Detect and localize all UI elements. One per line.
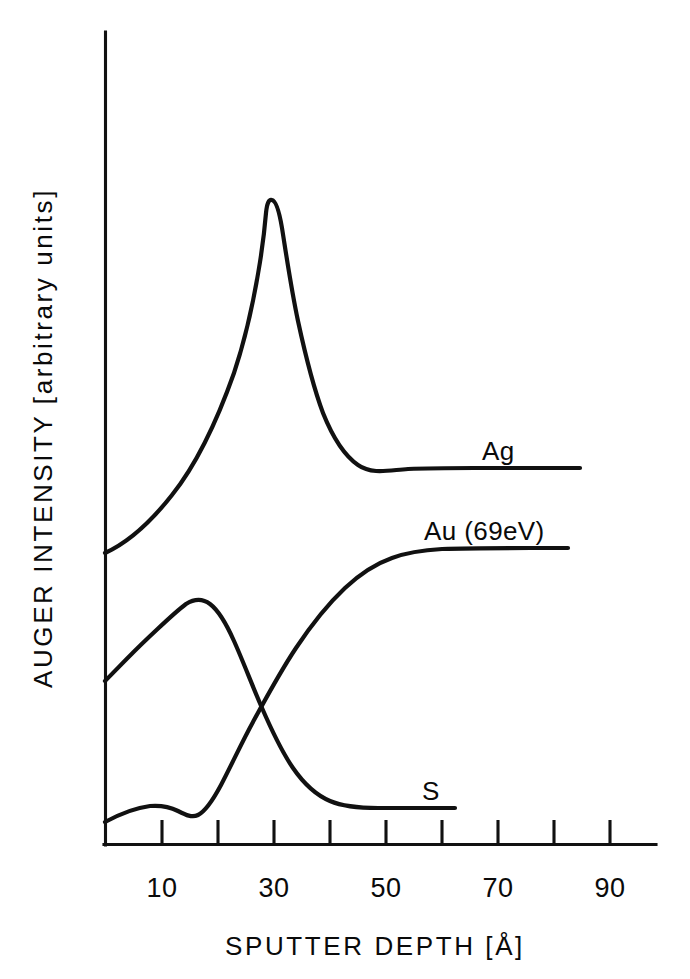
curve-au <box>105 548 568 822</box>
curve-ag-main <box>105 200 580 553</box>
curve-label-ag: Ag <box>482 436 515 466</box>
x-tick-label-10: 10 <box>146 873 177 903</box>
x-tick-label-90: 90 <box>594 873 625 903</box>
x-tick-label-70: 70 <box>482 873 513 903</box>
curve-label-au: Au (69eV) <box>424 516 545 546</box>
chart-canvas: 10 30 50 70 90 SPUTTER DEPTH [Å] AUGER I… <box>0 0 690 979</box>
curve-s <box>105 600 455 808</box>
auger-depth-profile-figure: 10 30 50 70 90 SPUTTER DEPTH [Å] AUGER I… <box>0 0 690 979</box>
x-tick-label-50: 50 <box>370 873 401 903</box>
x-axis-title: SPUTTER DEPTH [Å] <box>225 931 525 961</box>
curve-label-s: S <box>422 776 440 806</box>
y-axis-title: AUGER INTENSITY [arbitrary units] <box>28 188 58 688</box>
x-axis-ticks <box>162 820 610 844</box>
x-tick-label-30: 30 <box>258 873 289 903</box>
